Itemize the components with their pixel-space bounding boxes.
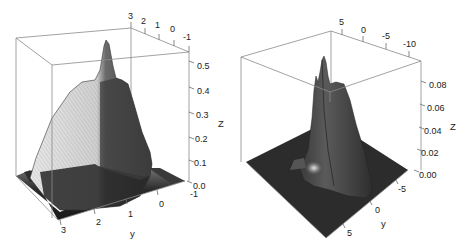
left-bottom-tick-3: 3 — [61, 225, 66, 235]
right-top-tick-neg5: -5 — [382, 31, 390, 41]
right-z-tick-002: 0.02 — [421, 148, 439, 158]
right-z-tick-004: 0.04 — [424, 126, 442, 136]
left-top-tick-1: 2 — [141, 16, 146, 26]
right-y-label: y — [381, 218, 386, 229]
left-z-tick-05: 0.5 — [197, 61, 210, 71]
right-surface-body — [300, 56, 372, 198]
right-bottom-tick-neg5: -5 — [398, 184, 406, 194]
right-top-tick-0: 0 — [361, 25, 366, 35]
right-top-tick-5: 5 — [339, 17, 344, 27]
left-z-tick-04: 0.4 — [197, 86, 210, 96]
left-z-axis: 0.5 0.4 0.3 0.2 0.1 0.0 -1 Z — [187, 61, 224, 199]
left-z-tick-extra: -1 — [190, 189, 198, 199]
right-plot-canvas: 5 0 -5 -10 0.08 0.06 0.04 0.02 0.00 Z 5 … — [233, 0, 466, 239]
right-surface-plot: 5 0 -5 -10 0.08 0.06 0.04 0.02 0.00 Z 5 … — [233, 0, 466, 239]
right-top-axis: 5 0 -5 -10 — [339, 17, 416, 57]
right-top-tick-neg10: -10 — [403, 39, 416, 49]
right-z-tick-008: 0.08 — [429, 80, 447, 90]
right-bottom-tick-0: 0 — [375, 205, 380, 215]
left-top-tick-0: 3 — [128, 11, 133, 21]
left-z-tick-02: 0.2 — [195, 134, 208, 144]
left-top-tick-4: -1 — [183, 32, 191, 42]
left-bottom-tick-2: 2 — [96, 217, 101, 227]
left-top-axis: 3 2 1 0 -1 — [128, 11, 191, 52]
right-z-tick-000: 0.00 — [419, 170, 437, 180]
left-z-label: Z — [218, 118, 224, 129]
left-bottom-tick-1: 1 — [128, 209, 133, 219]
right-bottom-tick-5: 5 — [347, 228, 352, 238]
left-y-label: y — [130, 228, 135, 239]
right-z-axis: 0.08 0.06 0.04 0.02 0.00 Z — [414, 80, 456, 180]
right-z-label: Z — [450, 121, 456, 132]
left-plot-canvas: 3 2 1 0 -1 0.5 0.4 0.3 0.2 0.1 0.0 -1 Z — [0, 0, 233, 239]
left-top-tick-2: 1 — [155, 20, 160, 30]
left-bottom-tick-0: 0 — [159, 199, 164, 209]
left-z-tick-03: 0.3 — [196, 110, 209, 120]
left-z-tick-01: 0.1 — [194, 158, 207, 168]
left-top-tick-3: 0 — [170, 24, 175, 34]
left-surface-plot: 3 2 1 0 -1 0.5 0.4 0.3 0.2 0.1 0.0 -1 Z — [0, 0, 233, 239]
right-z-tick-006: 0.06 — [427, 103, 445, 113]
right-surface-highlight — [304, 160, 324, 176]
